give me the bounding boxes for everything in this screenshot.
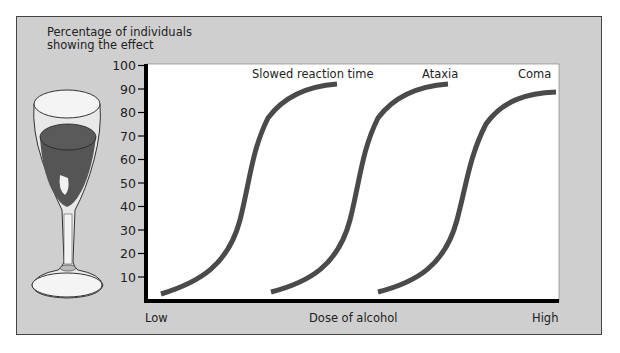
svg-text:30: 30 — [120, 223, 136, 238]
svg-text:70: 70 — [120, 129, 136, 144]
x-axis-title: Dose of alcohol — [309, 311, 397, 325]
svg-text:80: 80 — [120, 105, 136, 120]
svg-text:40: 40 — [120, 199, 136, 214]
svg-text:90: 90 — [120, 82, 136, 97]
x-high-label: High — [532, 311, 558, 325]
svg-text:10: 10 — [120, 270, 136, 285]
wine-glass-icon — [32, 90, 103, 298]
x-low-label: Low — [145, 311, 168, 325]
svg-text:60: 60 — [120, 152, 136, 167]
label-coma: Coma — [518, 67, 551, 81]
svg-text:50: 50 — [120, 176, 136, 191]
label-ataxia: Ataxia — [422, 67, 458, 81]
chart-svg: 100 90 80 70 60 50 40 30 20 10 Slowed re… — [0, 0, 620, 353]
label-slowed-reaction-time: Slowed reaction time — [252, 67, 374, 81]
plot-area — [147, 64, 559, 301]
svg-text:20: 20 — [120, 246, 136, 261]
svg-text:100: 100 — [112, 58, 136, 73]
y-tick-labels: 100 90 80 70 60 50 40 30 20 10 — [112, 58, 136, 285]
